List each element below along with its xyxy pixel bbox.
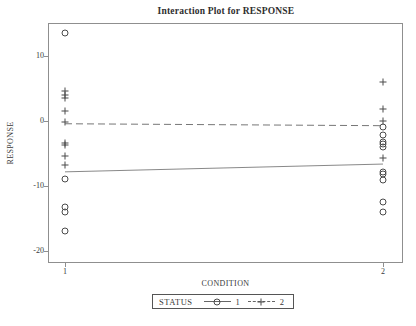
circle-marker [380,124,387,131]
x-axis-label: CONDITION [48,279,403,288]
y-tick-mark [44,251,48,252]
circle-marker [380,131,387,138]
circle-marker [62,29,69,36]
y-tick-mark [44,56,48,57]
y-tick-mark [44,121,48,122]
plot-layer: 100-10-2012 [0,0,416,326]
legend: STATUS 1 2 [152,294,294,309]
plus-marker [62,162,69,169]
plus-marker [380,117,387,124]
circle-marker [62,208,69,215]
x-tick-label: 2 [373,267,393,276]
plus-marker [62,153,69,160]
y-tick-mark [44,186,48,187]
circle-marker [380,143,387,150]
legend-sample-status-2 [248,297,275,306]
plus-marker [62,118,69,125]
circle-marker [62,176,69,183]
y-tick-label: -20 [12,246,44,256]
interaction-plot-screenshot: Interaction Plot for RESPONSE RESPONSE 1… [0,0,416,326]
legend-sample-status-1 [204,297,231,306]
circle-marker [380,198,387,205]
y-tick-label: 0 [12,116,44,126]
circle-marker-icon [214,298,221,305]
y-tick-label: 10 [12,51,44,61]
legend-title: STATUS [159,297,193,307]
circle-marker [380,208,387,215]
plus-marker [380,154,387,161]
plus-marker [62,141,69,148]
plus-marker [62,94,69,101]
plus-marker [380,78,387,85]
circle-marker [380,177,387,184]
legend-entry-label-2: 2 [280,297,284,307]
circle-marker [62,228,69,235]
plus-marker [380,106,387,113]
plus-marker-icon [258,298,265,305]
plus-marker [62,107,69,114]
legend-entry-label-1: 1 [236,297,240,307]
x-tick-label: 1 [55,267,75,276]
y-tick-label: -10 [12,181,44,191]
